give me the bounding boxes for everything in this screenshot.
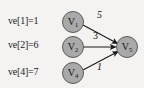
node-v2-base: V [68,42,75,52]
node-v2-subscript: 2 [75,46,78,53]
node-v4: V4 [62,62,84,84]
node-v5-base: V [122,42,129,52]
node-v1-subscript: 1 [75,21,78,28]
edge-weight-v4-v5: 1 [97,61,102,72]
node-v1-base: V [68,17,75,27]
edge-weight-v2-v5: 3 [93,30,98,41]
edge-weight-v1-v5: 5 [97,9,102,20]
edge-v1-v5 [83,25,118,44]
diagram-canvas: ve[1]=1 ve[2]=6 ve[4]=7 5 3 1 V1 V2 V4 V… [0,0,144,88]
node-v4-base: V [68,68,75,78]
node-v4-subscript: 4 [75,72,78,79]
node-v2: V2 [62,36,84,58]
node-v1: V1 [62,11,84,33]
node-v5-subscript: 5 [129,46,132,53]
node-v5: V5 [116,36,138,58]
